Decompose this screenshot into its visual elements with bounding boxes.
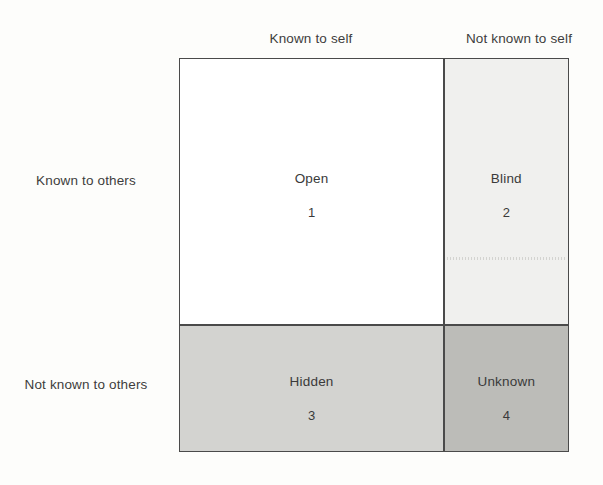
quadrant-hidden-title: Hidden (180, 373, 443, 390)
quadrant-blind-number: 2 (445, 204, 568, 221)
johari-window-matrix: Open 1 Blind 2 Hidden 3 Unknown 4 (179, 58, 569, 452)
quadrant-open: Open 1 (180, 59, 443, 324)
quadrant-open-text: Open 1 (180, 170, 443, 221)
row-header-known-to-others: Known to others (0, 172, 172, 190)
row-header-not-known-to-others: Not known to others (0, 376, 172, 394)
quadrant-blind: Blind 2 (445, 59, 568, 324)
quadrant-unknown-number: 4 (445, 407, 568, 424)
quadrant-unknown: Unknown 4 (445, 326, 568, 451)
divider-vertical (443, 59, 444, 451)
quadrant-blind-text: Blind 2 (445, 170, 568, 221)
scan-artifact-band (447, 257, 566, 260)
quadrant-unknown-text: Unknown 4 (445, 373, 568, 424)
quadrant-hidden-number: 3 (180, 407, 443, 424)
divider-horizontal (180, 324, 568, 325)
quadrant-open-number: 1 (180, 204, 443, 221)
quadrant-hidden-text: Hidden 3 (180, 373, 443, 424)
column-header-not-known-to-self: Not known to self (443, 30, 603, 48)
quadrant-unknown-title: Unknown (445, 373, 568, 390)
quadrant-blind-title: Blind (445, 170, 568, 187)
quadrant-hidden: Hidden 3 (180, 326, 443, 451)
column-header-known-to-self: Known to self (179, 30, 443, 48)
quadrant-open-title: Open (180, 170, 443, 187)
